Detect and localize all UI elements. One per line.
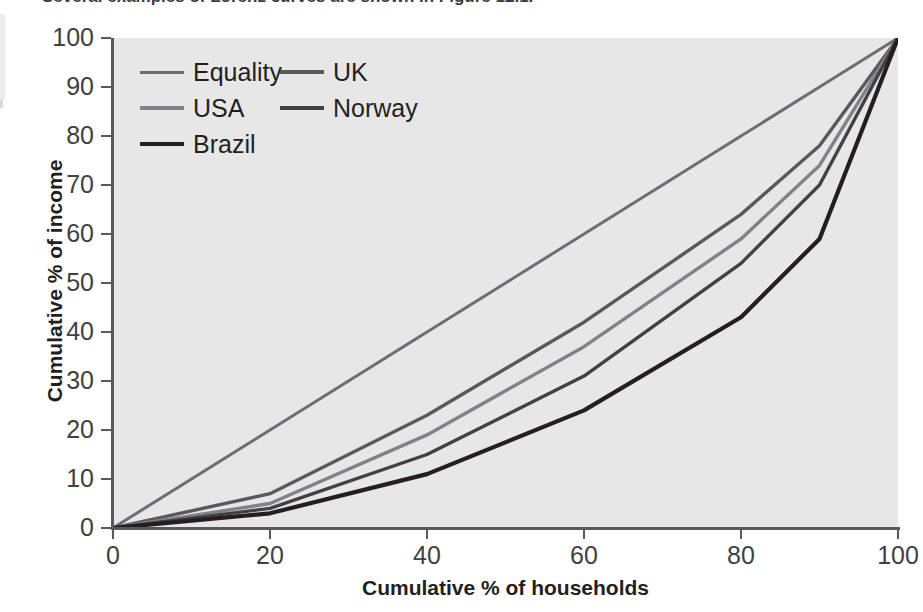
x-tick-label-0: 0 <box>73 543 153 568</box>
y-axis-title: Cumulative % of income <box>43 36 67 526</box>
y-axis-line <box>111 38 114 529</box>
page-text-cutoff-line: Several examples of Lorenz curves are sh… <box>42 0 533 7</box>
legend-item-uk: UK <box>280 60 368 85</box>
x-tick-label-60: 60 <box>544 543 624 568</box>
legend-swatch-uk-icon <box>280 70 324 73</box>
legend-label-uk: UK <box>333 60 368 85</box>
y-tick-60 <box>101 233 111 235</box>
page-text-cutoff: Several examples of Lorenz curves are sh… <box>0 0 917 13</box>
x-tick-80 <box>740 529 742 539</box>
legend-label-brazil: Brazil <box>193 132 256 157</box>
y-tick-0 <box>101 527 111 529</box>
x-tick-40 <box>426 529 428 539</box>
legend-label-equality: Equality <box>193 60 282 85</box>
legend-swatch-brazil-icon <box>140 142 184 146</box>
legend-row: USANorway <box>140 90 470 126</box>
y-tick-90 <box>101 86 111 88</box>
y-tick-70 <box>101 184 111 186</box>
y-tick-80 <box>101 135 111 137</box>
x-tick-label-80: 80 <box>701 543 781 568</box>
x-axis-title: Cumulative % of households <box>113 576 898 600</box>
legend-row: Brazil <box>140 126 470 162</box>
x-tick-label-20: 20 <box>230 543 310 568</box>
x-tick-60 <box>583 529 585 539</box>
legend-item-brazil: Brazil <box>140 132 280 157</box>
legend-label-usa: USA <box>193 96 244 121</box>
legend-item-norway: Norway <box>280 96 418 121</box>
y-tick-50 <box>101 282 111 284</box>
y-tick-40 <box>101 331 111 333</box>
legend-row: EqualityUK <box>140 54 470 90</box>
x-tick-100 <box>897 529 899 539</box>
lorenz-curve-figure: 0102030405060708090100 020406080100 Cumu… <box>0 14 917 612</box>
chart-legend: EqualityUKUSANorwayBrazil <box>140 54 470 162</box>
legend-swatch-norway-icon <box>280 106 324 109</box>
x-tick-0 <box>112 529 114 539</box>
y-tick-10 <box>101 478 111 480</box>
legend-swatch-equality-icon <box>140 71 184 74</box>
legend-item-usa: USA <box>140 96 280 121</box>
x-tick-label-40: 40 <box>387 543 467 568</box>
legend-label-norway: Norway <box>333 96 418 121</box>
y-tick-30 <box>101 380 111 382</box>
y-tick-20 <box>101 429 111 431</box>
x-tick-20 <box>269 529 271 539</box>
x-axis-line <box>111 527 900 530</box>
y-tick-100 <box>101 37 111 39</box>
x-tick-label-100: 100 <box>858 543 923 568</box>
legend-swatch-usa-icon <box>140 106 184 109</box>
legend-item-equality: Equality <box>140 60 280 85</box>
